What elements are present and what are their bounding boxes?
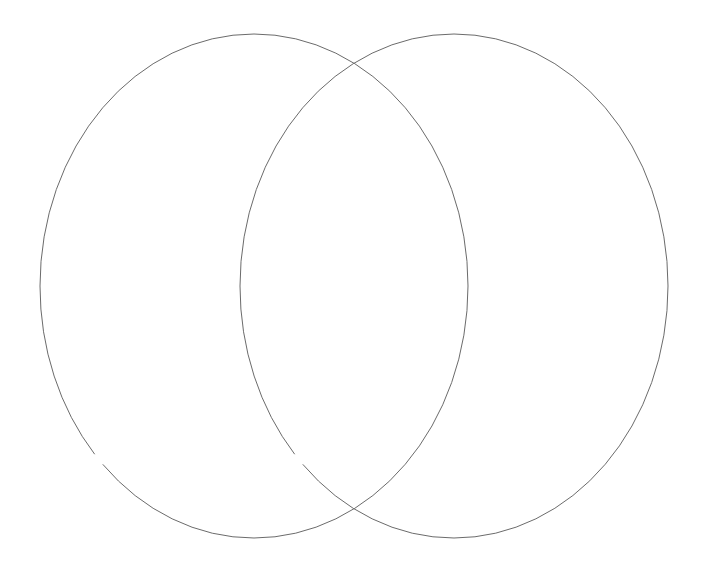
diagram-canvas	[0, 0, 706, 571]
canvas-background	[0, 0, 706, 571]
venn-diagram-svg	[0, 0, 706, 571]
